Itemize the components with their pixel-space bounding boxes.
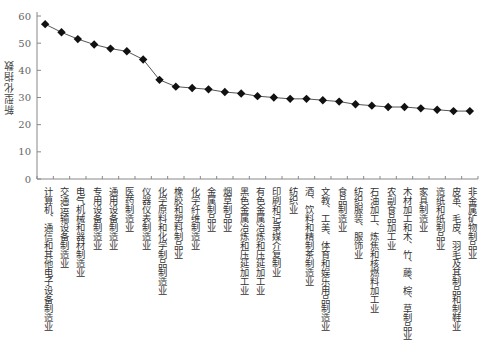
x-tick-label: 交通运输设备制造业 <box>59 186 70 268</box>
x-tick-label: 化学纤维制造业 <box>190 186 201 250</box>
y-tick-label: 50 <box>18 38 31 49</box>
data-point-diamond <box>106 44 114 52</box>
x-tick-label: 农副食品加工业 <box>386 186 397 250</box>
x-tick-label: 橡胶和塑料制品业 <box>173 186 184 259</box>
data-point-diamond <box>221 88 229 96</box>
x-tick-label: 有色金属冶炼和压延加工业 <box>255 186 266 295</box>
x-tick-label: 电气机械和器材制造业 <box>75 186 86 277</box>
x-tick-label: 造纸和纸制品业 <box>435 186 446 250</box>
y-tick-label: 40 <box>18 65 31 76</box>
x-tick-label: 医药制造业 <box>124 187 135 232</box>
y-tick-label: 0 <box>25 174 31 185</box>
data-point-diamond <box>433 106 441 114</box>
data-point-diamond <box>335 97 343 105</box>
data-point-diamond <box>172 82 180 90</box>
y-tick-label: 30 <box>18 92 31 103</box>
data-point-diamond <box>90 40 98 48</box>
x-tick-label: 非金属矿物制品业 <box>467 186 478 259</box>
line-chart: 0102030405060计算机、通信和其他电子设备制造业交通运输设备制造业电气… <box>0 0 485 361</box>
x-tick-label: 文教、工美、体育和娱乐用品制造业 <box>320 186 331 331</box>
x-tick-label: 纺织服装、服饰业 <box>353 186 364 259</box>
y-tick-label: 60 <box>18 11 31 22</box>
data-point-diamond <box>449 107 457 115</box>
data-point-diamond <box>41 20 49 28</box>
data-point-diamond <box>384 103 392 111</box>
data-point-diamond <box>302 95 310 103</box>
x-tick-label: 仪器仪表制造业 <box>141 187 152 250</box>
x-tick-label: 纺织业 <box>288 186 299 214</box>
x-tick-label: 酒、饮料和精制茶制造业 <box>304 187 315 286</box>
x-tick-label: 印刷和记录媒介复制业 <box>271 186 282 277</box>
x-tick-label: 木材加工和木、竹、藤、棕、草制品业 <box>402 186 413 340</box>
data-point-diamond <box>57 28 65 36</box>
x-tick-label: 皮革、毛皮、羽毛及其制品和制鞋业 <box>451 186 462 331</box>
x-tick-label: 专用设备制造业 <box>92 186 103 250</box>
x-tick-label: 石油加工、炼焦和核燃料加工业 <box>369 187 380 313</box>
x-tick-label: 家具制造业 <box>418 186 429 232</box>
x-tick-label: 化学原料和化学制品制造业 <box>157 186 168 295</box>
data-point-diamond <box>188 84 196 92</box>
data-point-diamond <box>466 107 474 115</box>
x-tick-label: 黑色金属冶炼和压延加工业 <box>239 187 250 295</box>
data-point-diamond <box>400 103 408 111</box>
y-tick-label: 20 <box>18 119 31 130</box>
data-point-diamond <box>319 96 327 104</box>
data-point-diamond <box>123 47 131 55</box>
y-tick-label: 10 <box>18 146 31 157</box>
data-point-diamond <box>237 89 245 97</box>
data-point-diamond <box>368 101 376 109</box>
data-point-diamond <box>253 92 261 100</box>
x-tick-label: 金属制品业 <box>206 186 217 232</box>
x-tick-label: 食品制造业 <box>337 186 348 232</box>
x-tick-label: 通用设备制造业 <box>108 187 119 250</box>
data-point-diamond <box>417 104 425 112</box>
data-point-diamond <box>74 35 82 43</box>
data-point-diamond <box>204 85 212 93</box>
data-point-diamond <box>351 100 359 108</box>
data-point-diamond <box>270 93 278 101</box>
data-point-diamond <box>286 95 294 103</box>
x-tick-label: 计算机、通信和其他电子设备制造业 <box>43 186 54 331</box>
x-tick-label: 烟草制品业 <box>222 186 233 232</box>
